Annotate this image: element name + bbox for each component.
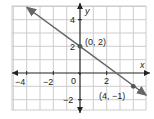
y-tick-4: 4 [70, 15, 75, 25]
y-tick-neg2: −2 [63, 95, 73, 105]
point-label-4-neg1: (4, −1) [99, 91, 125, 101]
grid [12, 6, 146, 110]
x-tick-neg2: −2 [43, 77, 53, 87]
point-0-2 [78, 44, 83, 49]
x-tick-2: 2 [104, 76, 109, 86]
y-axis-label: y [84, 6, 90, 16]
x-tick-neg4: −4 [15, 77, 25, 87]
y-tick-2: 2 [70, 42, 75, 52]
point-4-neg1 [131, 84, 136, 89]
x-tick-0: 0 [71, 76, 76, 86]
coordinate-graph: y x −4 −2 0 2 4 2 −2 (0, 2) (4, −1) [0, 0, 154, 119]
x-axis-label: x [139, 60, 145, 70]
point-label-0-2: (0, 2) [85, 37, 106, 47]
